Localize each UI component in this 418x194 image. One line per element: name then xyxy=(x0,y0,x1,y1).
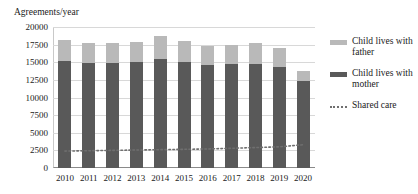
x-axis-tick-label: 2011 xyxy=(80,173,98,183)
legend-swatch-shared-icon xyxy=(330,106,347,108)
plot-area: 20000175001500012500100007500500025000 2… xyxy=(53,27,315,168)
x-axis-tick-label: 2010 xyxy=(56,173,74,183)
y-axis-tick-label: 10000 xyxy=(26,93,49,103)
shared-care-line xyxy=(53,27,315,168)
y-axis-tick-label: 15000 xyxy=(26,57,49,67)
y-axis-tick-label: 17500 xyxy=(26,40,49,50)
x-axis-tick-label: 2013 xyxy=(127,173,145,183)
y-axis-tick-label: 2500 xyxy=(30,145,48,155)
x-axis-tick-label: 2012 xyxy=(104,173,122,183)
legend-label: Child lives with father xyxy=(352,36,416,58)
x-axis-tick-label: 2020 xyxy=(294,173,312,183)
legend-item[interactable]: Child lives with father xyxy=(330,36,416,58)
y-axis-tick-label: 7500 xyxy=(30,110,48,120)
chart-container: Agreements/year 200001750015000125001000… xyxy=(0,0,418,194)
x-axis-tick-label: 2016 xyxy=(199,173,217,183)
legend-swatch-mother-icon xyxy=(330,72,347,77)
chart-axis-title: Agreements/year xyxy=(14,7,79,17)
legend-label: Shared care xyxy=(352,100,397,111)
x-axis-tick-label: 2019 xyxy=(270,173,288,183)
x-axis-tick-label: 2017 xyxy=(223,173,241,183)
y-axis-tick-label: 12500 xyxy=(26,75,49,85)
x-axis-tick-label: 2015 xyxy=(175,173,193,183)
chart-legend: Child lives with fatherChild lives with … xyxy=(330,36,416,121)
y-axis-tick-label: 5000 xyxy=(30,128,48,138)
legend-swatch-father-icon xyxy=(330,40,347,45)
y-axis-tick-label: 20000 xyxy=(26,22,49,32)
legend-label: Child lives with mother xyxy=(352,68,416,90)
x-axis-tick-label: 2018 xyxy=(246,173,264,183)
legend-item[interactable]: Child lives with mother xyxy=(330,68,416,90)
shared-care-polyline xyxy=(65,145,303,151)
y-axis-tick-label: 0 xyxy=(44,163,49,173)
legend-item[interactable]: Shared care xyxy=(330,100,416,111)
x-axis-tick-label: 2014 xyxy=(151,173,169,183)
